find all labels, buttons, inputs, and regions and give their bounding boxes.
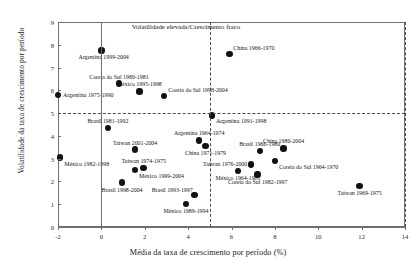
x-axis-tick-label: 12	[358, 233, 365, 240]
data-point-label: Taiwan 2001-2004	[113, 140, 157, 146]
data-point-label: Taiwan 1969-1975	[337, 190, 381, 196]
data-point[interactable]	[196, 137, 202, 143]
y-axis-tick-label: 3	[40, 155, 54, 162]
data-point-label: China 1971-1979	[185, 150, 226, 156]
x-axis-tick-label: 0	[100, 233, 103, 240]
data-point-label: Brasil 1981-1992	[87, 118, 128, 124]
y-axis-tick	[58, 22, 61, 23]
data-point-label: Brasil 1993-1997	[152, 187, 193, 193]
data-point-label: México 1989-1994	[163, 208, 208, 214]
x-axis-tick-label: 6	[230, 233, 233, 240]
y-axis-tick-label: 1	[40, 201, 54, 208]
x-axis-title: Média da taxa de crescimento por período…	[0, 248, 416, 257]
y-axis-tick-label: 0	[40, 224, 54, 231]
scatter-chart-figure: Volatilidade da taxa de crescimento por …	[0, 0, 416, 273]
data-point[interactable]	[136, 88, 142, 94]
y-axis-tick	[58, 90, 61, 91]
data-point-label: Coreia do Sul 1998-2004	[168, 87, 227, 93]
y-axis-tick-label: 9	[40, 19, 54, 26]
data-point[interactable]	[140, 165, 146, 171]
data-point[interactable]	[57, 154, 63, 160]
y-axis-tick	[58, 45, 61, 46]
reference-line-horizontal	[58, 113, 405, 114]
data-point[interactable]	[280, 145, 286, 151]
x-axis-tick-label: 2	[143, 233, 146, 240]
x-axis-tick-label: 10	[315, 233, 322, 240]
quadrant-annotation: Volatilidade elevada/Crescimento fraco	[132, 23, 241, 30]
data-point[interactable]	[119, 179, 125, 185]
data-point-label: China 1980-2004	[263, 138, 304, 144]
x-axis-tick-label: 14	[402, 233, 409, 240]
data-point-label: Coreia do Sul 1982-1997	[228, 179, 287, 185]
plot-right-edge-dashed	[405, 22, 406, 227]
y-axis-line	[101, 22, 102, 227]
y-axis-tick	[58, 181, 61, 182]
x-axis-tick	[405, 227, 406, 230]
data-point-label: México 1982-1998	[64, 161, 109, 167]
data-point[interactable]	[132, 146, 138, 152]
y-axis-tick	[58, 204, 61, 205]
data-point[interactable]	[257, 148, 263, 154]
data-point-label: Coreia do Sul 1980-1981	[89, 74, 148, 80]
data-point-label: México 1999-2004	[139, 173, 184, 179]
y-axis-tick-label: 8	[40, 41, 54, 48]
x-axis-tick-label: -2	[55, 233, 61, 240]
y-axis-tick	[58, 68, 61, 69]
data-point[interactable]	[226, 51, 232, 57]
y-axis-tick	[58, 136, 61, 137]
reference-line-vertical	[210, 22, 211, 227]
data-point[interactable]	[202, 143, 208, 149]
y-axis-tick-label: 7	[40, 64, 54, 71]
y-axis-title: Volatilidade da taxa de crescimento por …	[17, 0, 26, 206]
data-point-label: Argentina 1975-1990	[63, 92, 113, 98]
data-point-label: Argentina 1991-1998	[216, 118, 266, 124]
data-point[interactable]	[254, 171, 260, 177]
data-point-label: Coreia do Sul 1964-1970	[279, 164, 338, 170]
data-point-label: Taiwan 1974-1975	[122, 158, 166, 164]
x-axis-line	[58, 227, 405, 228]
data-point-label: Brasil 1998-2004	[101, 187, 142, 193]
data-point-label: Argentina 1964-1974	[174, 130, 224, 136]
data-point[interactable]	[356, 183, 362, 189]
x-axis-tick-label: 4	[186, 233, 189, 240]
data-point-label: Argentina 1999-2004	[78, 54, 128, 60]
data-point[interactable]	[248, 161, 254, 167]
x-axis-tick-label: 8	[273, 233, 276, 240]
y-axis-tick-label: 4	[40, 132, 54, 139]
y-axis-tick-label: 5	[40, 110, 54, 117]
y-axis-tick-label: 2	[40, 178, 54, 185]
data-point-label: México 1995-1998	[117, 81, 162, 87]
data-point-label: China 1966-1970	[233, 45, 274, 51]
y-axis-tick-label: 6	[40, 87, 54, 94]
y-axis-tick	[58, 159, 61, 160]
